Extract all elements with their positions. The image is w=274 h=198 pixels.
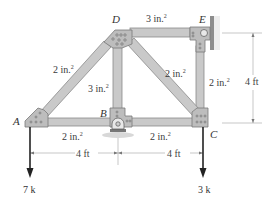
dimension-AB: 4 ft xyxy=(76,148,90,159)
gusset-C xyxy=(192,108,208,127)
node-label-A: A xyxy=(12,115,20,127)
member-DE xyxy=(130,28,190,37)
node-label-B: B xyxy=(100,107,107,119)
load-label-A: 7 k xyxy=(23,184,36,195)
area-label-AB: 2 in.2 xyxy=(62,131,83,142)
wall-support-E xyxy=(210,16,220,50)
node-label-C: C xyxy=(210,128,218,140)
node-label-E: E xyxy=(198,13,206,25)
member-EC xyxy=(196,46,204,112)
area-label-BD: 3 in.2 xyxy=(88,83,109,94)
area-label-AD: 2 in.2 xyxy=(53,64,74,75)
member-BC xyxy=(122,118,195,126)
load-label-C: 3 k xyxy=(198,184,211,195)
area-label-EC: 2 in.2 xyxy=(209,77,230,88)
member-DC xyxy=(127,38,200,116)
pin-E xyxy=(201,30,208,37)
node-label-D: D xyxy=(111,13,120,25)
ground-support-B xyxy=(102,129,134,138)
member-AD xyxy=(40,41,111,117)
truss-diagram: D E A B C 3 in.2 2 in.2 3 in.2 2 in.2 2 … xyxy=(0,0,274,198)
area-label-DE: 3 in.2 xyxy=(146,13,167,24)
dimension-BC: 4 ft xyxy=(167,148,181,159)
member-BD xyxy=(113,45,122,111)
dimension-height: 4 ft xyxy=(245,76,259,87)
area-label-DC: 2 in.2 xyxy=(165,68,186,79)
area-label-BC: 2 in.2 xyxy=(150,131,171,142)
